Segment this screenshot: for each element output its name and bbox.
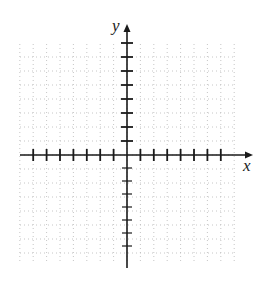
x-axis-label: x — [243, 157, 251, 174]
y-axis-label: y — [112, 17, 120, 34]
y-axis-arrow-icon — [124, 24, 131, 32]
axes-group — [20, 24, 253, 268]
coordinate-plane — [0, 0, 275, 286]
